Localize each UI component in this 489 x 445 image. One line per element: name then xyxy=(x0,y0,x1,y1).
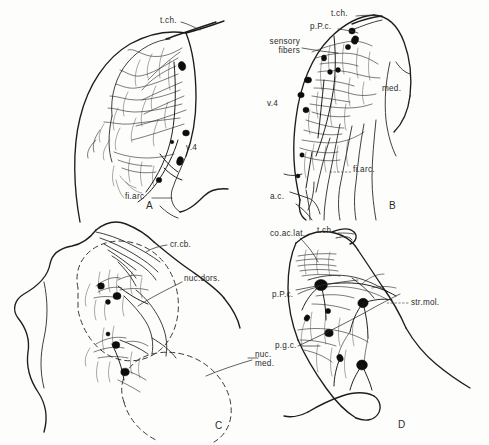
label-b-ac: a.c. xyxy=(270,192,284,201)
label-b-fi-arc: fi.arc. xyxy=(353,165,375,174)
label-b-p-p-c: p.P.c. xyxy=(310,22,331,31)
panel-letter-d: D xyxy=(398,419,406,430)
leader-nuc-med-c xyxy=(206,360,252,376)
panel-d-drawing xyxy=(248,229,470,420)
panel-letter-b: B xyxy=(389,200,396,211)
leader-t-ch-a xyxy=(181,22,200,30)
label-d-str-mol: str.mol. xyxy=(411,298,439,307)
panel-b-drawing xyxy=(284,15,411,220)
label-a-v4: v.4 xyxy=(186,143,197,152)
label-d-t-ch: t.ch. xyxy=(317,226,334,235)
panel-letter-c: C xyxy=(215,420,223,431)
label-b-t-ch: t.ch. xyxy=(331,9,348,18)
label-c-nuc-med: nuc. med. xyxy=(255,350,274,368)
label-d-co-ac-lat: co.ac.lat. xyxy=(270,229,305,238)
pgc-axis-line xyxy=(298,294,400,346)
label-b-sensory-fibers: sensory fibers xyxy=(266,37,300,55)
panel-a-drawing xyxy=(75,21,228,222)
figure-root: t.ch. v.4 fi.arc A t.ch. p.P.c. sensory … xyxy=(0,0,489,445)
label-b-v4: v.4 xyxy=(267,99,278,108)
leader-co-ac-lat-d xyxy=(300,238,318,262)
figure-drawing xyxy=(0,0,489,445)
leader-t-ch-d xyxy=(338,233,354,234)
label-a-t-ch: t.ch. xyxy=(160,16,177,25)
panel-c-drawing xyxy=(15,222,252,442)
label-d-p-p-c: p.P.c. xyxy=(272,290,293,299)
label-c-cr-cb: cr.cb. xyxy=(170,240,191,249)
label-d-p-g-c: p.g.c. xyxy=(275,341,297,350)
label-c-nuc-dors: nuc.dors. xyxy=(184,274,220,283)
label-b-med: med. xyxy=(382,84,401,93)
label-a-fi-arc: fi.arc xyxy=(125,192,144,201)
panel-letter-a: A xyxy=(146,200,153,211)
